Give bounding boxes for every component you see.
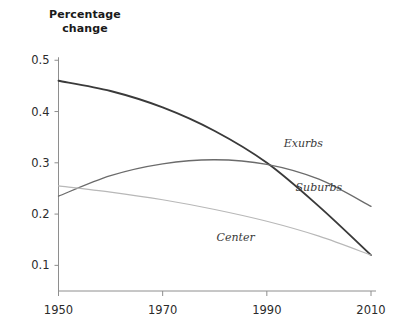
y-tick-label: 0.2 — [31, 207, 49, 221]
series-line-suburbs — [59, 81, 372, 255]
y-tick-label: 0.4 — [31, 105, 49, 119]
x-axis-ticks: 1950197019902010 — [44, 291, 386, 317]
series-label-suburbs: Suburbs — [296, 181, 343, 194]
y-tick-label: 0.3 — [31, 156, 49, 170]
series-inline-labels: SuburbsExurbsCenter — [216, 137, 342, 243]
x-tick-label: 2010 — [356, 303, 385, 317]
x-tick-label: 1950 — [44, 303, 73, 317]
x-tick-label: 1990 — [252, 303, 281, 317]
series-label-center: Center — [216, 231, 255, 244]
y-tick-label: 0.1 — [31, 258, 49, 272]
y-tick-label: 0.5 — [31, 53, 49, 67]
x-tick-label: 1970 — [148, 303, 177, 317]
series-label-exurbs: Exurbs — [283, 137, 324, 150]
line-chart: 0.50.40.30.20.1 1950197019902010 Suburbs… — [0, 0, 404, 333]
y-axis-ticks: 0.50.40.30.20.1 — [31, 53, 58, 272]
chart-page: Percentage change 0.50.40.30.20.1 195019… — [0, 0, 404, 333]
series-line-center — [59, 186, 372, 255]
series-lines — [59, 81, 372, 255]
